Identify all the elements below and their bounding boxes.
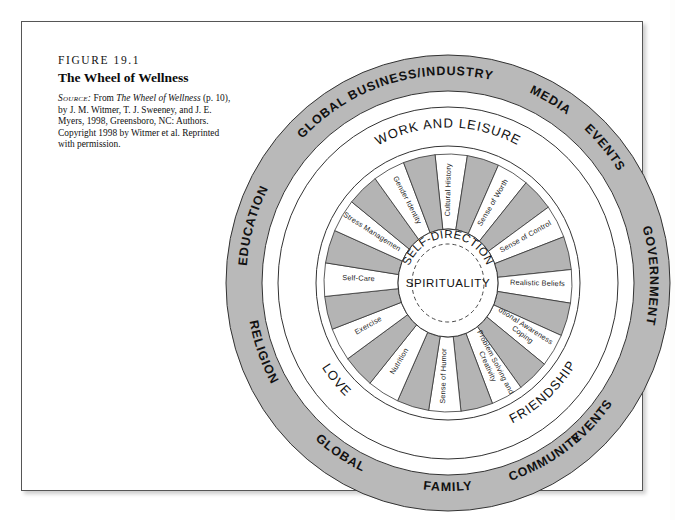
outer-ring-label-family: FAMILY: [423, 479, 474, 495]
source-text-1: From: [91, 93, 116, 103]
figure-frame: FIGURE 19.1 The Wheel of Wellness Source…: [21, 21, 643, 491]
source-label: Source:: [58, 93, 91, 103]
center-group: SPIRITUALITYSELF-DIRECTION: [398, 228, 498, 337]
figure-source-note: Source: From The Wheel of Wellness (p. 1…: [58, 93, 238, 151]
figure-caption-block: FIGURE 19.1 The Wheel of Wellness Source…: [58, 54, 238, 151]
inner-wedge-label-self-care: Self-Care: [342, 273, 375, 283]
wheel-svg: SPIRITUALITYSELF-DIRECTION GLOBALBUSINES…: [218, 46, 675, 516]
inner-wedge-label-cultural-history: Cultural History: [443, 163, 453, 217]
inner-wedge-label-sense-of-humor: Sense of Humor: [438, 348, 448, 404]
figure-title: The Wheel of Wellness: [58, 70, 238, 86]
source-italic-title: The Wheel of Wellness: [116, 93, 200, 103]
inner-wedge-label-realistic-beliefs: Realistic Beliefs: [510, 278, 565, 288]
figure-number: FIGURE 19.1: [58, 54, 238, 66]
center-spirituality-label: SPIRITUALITY: [406, 277, 491, 289]
wheel-of-wellness-diagram: SPIRITUALITYSELF-DIRECTION GLOBALBUSINES…: [218, 46, 675, 516]
